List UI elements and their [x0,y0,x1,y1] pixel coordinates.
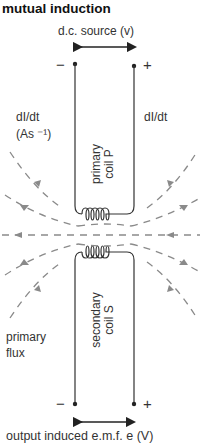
bottom-terminal-minus [73,402,77,406]
primary-coil-label: primary coil P [90,124,118,204]
flux-label-line2: flux [6,346,25,360]
top-plus-sign: + [143,56,152,73]
bottom-plus-sign: + [143,395,152,412]
top-minus-sign: − [56,56,65,73]
secondary-coil-label: secondary coil S [90,272,118,368]
left-rate-label-line2: (As ⁻¹) [16,127,51,141]
bottom-terminal-plus [132,402,136,406]
secondary-coil-label-line2: coil S [103,272,116,368]
bottom-minus-sign: − [56,395,65,412]
output-label: output induced e.m.f. e (V) [6,429,153,443]
flux-label-line1: primary [6,330,46,344]
primary-coil-label-line2: coil P [103,124,116,204]
mutual-induction-diagram [0,0,202,446]
right-rate-label: dI/dt [144,110,167,124]
left-rate-label-line1: dI/dt [16,110,39,124]
